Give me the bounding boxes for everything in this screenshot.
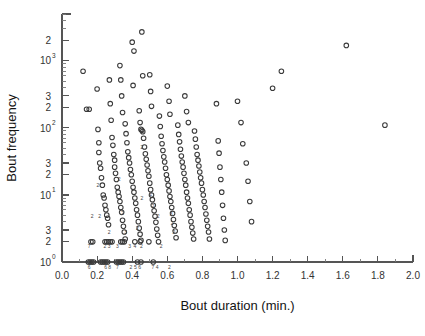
scatter-point <box>167 189 172 194</box>
count-annotation: 3 <box>116 243 119 249</box>
scatter-point <box>206 230 211 235</box>
scatter-point <box>121 224 126 229</box>
svg-text:1: 1 <box>52 186 56 193</box>
svg-text:2: 2 <box>52 119 56 126</box>
scatter-point <box>100 183 105 188</box>
count-annotation: 2 <box>140 195 143 201</box>
x-tick-label: 1.2 <box>266 270 280 281</box>
y-tick-label: 3 <box>45 158 51 169</box>
y-tick-label: 103 <box>40 52 56 66</box>
scatter-plot-figure: 0.00.20.40.60.81.01.21.41.61.82.0 100231… <box>0 0 425 336</box>
scatter-point <box>107 78 112 83</box>
scatter-point <box>218 165 223 170</box>
svg-text:10: 10 <box>40 257 52 268</box>
svg-text:3: 3 <box>45 158 51 169</box>
scatter-point <box>131 185 136 190</box>
scatter-point <box>158 124 163 129</box>
y-tick-label: 3 <box>45 225 51 236</box>
scatter-point <box>130 40 135 45</box>
svg-text:10: 10 <box>40 55 52 66</box>
scatter-point <box>205 224 210 229</box>
scatter-point <box>198 176 203 181</box>
scatter-point <box>103 203 108 208</box>
scatter-point <box>148 89 153 94</box>
scatter-point <box>111 152 116 157</box>
count-annotation: 2 <box>121 210 124 216</box>
y-tick-label: 101 <box>40 186 56 200</box>
count-annotation: 2 <box>97 182 100 188</box>
count-annotation: 2 <box>171 220 174 226</box>
y-axis-ticks <box>62 14 69 262</box>
count-annotation: 2 <box>136 225 139 231</box>
scatter-point <box>279 69 284 74</box>
svg-text:2: 2 <box>45 35 51 46</box>
scatter-point <box>204 218 209 223</box>
scatter-point <box>123 122 128 127</box>
scatter-point <box>204 212 209 217</box>
scatter-point <box>108 101 113 106</box>
scatter-point <box>220 203 225 208</box>
scatter-point <box>192 129 197 134</box>
x-tick-label: 1.6 <box>336 270 350 281</box>
scatter-point <box>119 94 124 99</box>
scatter-point <box>118 78 123 83</box>
scatter-point <box>169 205 174 210</box>
count-annotation: 2 <box>152 203 155 209</box>
scatter-point <box>129 172 134 177</box>
scatter-point <box>132 190 137 195</box>
scatter-point <box>96 127 101 132</box>
scatter-point <box>178 147 183 152</box>
svg-text:3: 3 <box>45 225 51 236</box>
scatter-point <box>200 187 205 192</box>
scatter-point <box>109 118 114 123</box>
scatter-point <box>144 157 149 162</box>
scatter-point <box>216 139 221 144</box>
scatter-point <box>194 145 199 150</box>
scatter-point <box>176 132 181 137</box>
scatter-point <box>222 228 227 233</box>
scatter-point <box>97 161 102 166</box>
x-tick-label: 2.0 <box>406 270 420 281</box>
scatter-point <box>186 201 191 206</box>
count-annotation: 2 <box>108 229 111 235</box>
scatter-point <box>134 208 139 213</box>
scatter-point <box>163 166 168 171</box>
scatter-point <box>169 199 174 204</box>
scatter-point <box>147 174 152 179</box>
y-tick-label: 2 <box>45 102 51 113</box>
y-tick-label: 3 <box>45 91 51 102</box>
scatter-point <box>181 165 186 170</box>
count-annotation: 3 <box>124 229 127 235</box>
count-annotation: 4 <box>156 264 159 270</box>
scatter-point <box>195 152 200 157</box>
scatter-point <box>128 167 133 172</box>
scatter-point <box>239 120 244 125</box>
count-annotation: 6 <box>138 264 141 270</box>
svg-text:2: 2 <box>45 102 51 113</box>
scatter-point <box>113 171 118 176</box>
scatter-point <box>193 137 198 142</box>
x-tick-label: 0.2 <box>90 270 104 281</box>
scatter-point <box>127 161 132 166</box>
scatter-point <box>126 155 131 160</box>
scatter-point <box>143 152 148 157</box>
scatter-point <box>159 134 164 139</box>
scatter-point <box>133 196 138 201</box>
count-annotation: 7 <box>152 264 155 270</box>
x-axis-tick-labels: 0.00.20.40.60.81.01.21.41.61.82.0 <box>55 270 420 281</box>
scatter-point <box>203 205 208 210</box>
scatter-point <box>165 84 170 89</box>
scatter-point <box>147 181 152 186</box>
scatter-point <box>240 141 245 146</box>
scatter-point <box>133 201 138 206</box>
scatter-point <box>138 120 143 125</box>
y-axis-tick-labels: 1002310123102231032 <box>40 35 56 267</box>
count-annotation: 7 <box>116 264 119 270</box>
scatter-point <box>246 179 251 184</box>
svg-text:3: 3 <box>52 52 56 59</box>
plot-canvas: 0.00.20.40.60.81.01.21.41.61.82.0 100231… <box>0 0 425 336</box>
scatter-point <box>201 193 206 198</box>
count-annotation: 3 <box>170 211 173 217</box>
scatter-point <box>217 151 222 156</box>
scatter-point <box>168 194 173 199</box>
